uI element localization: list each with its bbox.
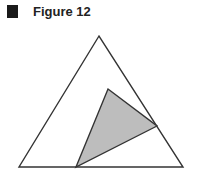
triangle-diagram xyxy=(0,0,210,177)
